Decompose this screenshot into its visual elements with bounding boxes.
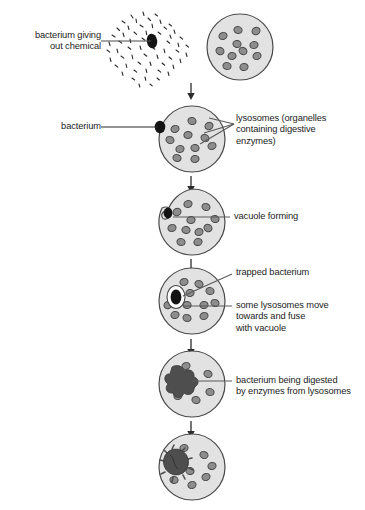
trapped-bacterium — [171, 289, 182, 304]
diagram-canvas: bacterium giving out chemical bacterium … — [0, 0, 365, 510]
cell-stage-3 — [159, 189, 225, 255]
cell-stage-5 — [159, 351, 225, 417]
label-lysosomes: lysosomes (organelles containing digesti… — [236, 113, 364, 147]
cell-stage-1 — [207, 14, 273, 80]
label-vacuole-forming: vacuole forming — [234, 211, 360, 222]
label-bacterium-being-digested: bacterium being digested by enzymes from… — [236, 375, 364, 398]
bacterium-stage3 — [164, 208, 173, 219]
label-bacterium-giving-out-chemical: bacterium giving out chemical — [4, 30, 101, 53]
label-trapped-bacterium: trapped bacterium — [236, 267, 362, 278]
label-bacterium: bacterium — [4, 121, 101, 132]
label-some-lysosomes-move: some lysosomes move towards and fuse wit… — [236, 300, 364, 334]
cell-stage-6 — [159, 434, 225, 500]
cell-stage-2 — [155, 106, 225, 172]
chemical-cloud — [107, 12, 189, 87]
cell-stage-4 — [159, 268, 225, 334]
diagram-artwork — [0, 0, 365, 510]
